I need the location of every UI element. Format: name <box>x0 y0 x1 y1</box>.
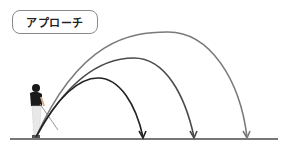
golfer-figure-icon <box>30 84 58 138</box>
trajectory-mid <box>36 58 194 137</box>
trajectory-high <box>36 32 247 137</box>
trajectory-low <box>36 78 143 137</box>
trajectory-diagram <box>0 0 289 151</box>
